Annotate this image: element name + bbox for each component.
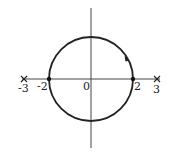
label-pos3: 3 <box>153 83 160 96</box>
diagram-canvas: -3 -2 0 2 3 <box>0 0 170 156</box>
label-neg2: -2 <box>37 80 48 93</box>
label-pos2: 2 <box>134 80 141 93</box>
label-zero: 0 <box>83 80 90 93</box>
label-neg3: -3 <box>18 82 29 95</box>
